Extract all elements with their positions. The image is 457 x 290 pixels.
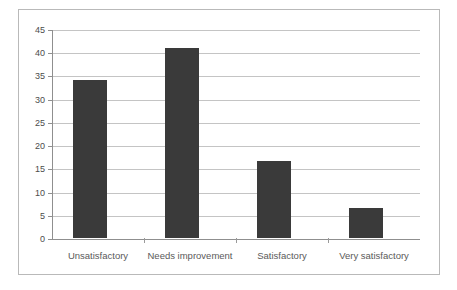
y-tick-mark-40 [48, 53, 53, 54]
y-tick-mark-10 [48, 193, 53, 194]
y-tick-label: 45 [35, 26, 45, 35]
gridline-10 [52, 193, 420, 194]
gridline-45 [52, 30, 420, 31]
x-axis-category-label: Satisfactory [257, 251, 307, 261]
gridline-25 [52, 123, 420, 124]
x-tick-mark [236, 238, 237, 243]
y-tick-mark-15 [48, 169, 53, 170]
y-tick-mark-35 [48, 76, 53, 77]
y-tick-mark-5 [48, 216, 53, 217]
gridline-40 [52, 53, 420, 54]
y-tick-label: 20 [35, 142, 45, 151]
bar-chart-figure: 051015202530354045 UnsatisfactoryNeeds i… [18, 9, 440, 275]
bar [349, 208, 383, 238]
x-tick-mark [144, 238, 145, 243]
plot-area: 051015202530354045 UnsatisfactoryNeeds i… [52, 30, 420, 239]
y-tick-label: 15 [35, 165, 45, 174]
y-tick-mark-20 [48, 146, 53, 147]
x-axis-category-label: Very satisfactory [339, 251, 409, 261]
y-tick-mark-45 [48, 30, 53, 31]
y-tick-mark-25 [48, 123, 53, 124]
y-tick-label: 25 [35, 118, 45, 127]
bar [257, 161, 291, 238]
y-tick-label: 0 [40, 235, 45, 244]
y-tick-label: 30 [35, 95, 45, 104]
y-tick-label: 5 [40, 211, 45, 220]
bar [165, 48, 199, 238]
gridline-20 [52, 146, 420, 147]
y-tick-label: 35 [35, 72, 45, 81]
y-axis-line [52, 30, 53, 239]
y-tick-mark-30 [48, 100, 53, 101]
y-tick-label: 10 [35, 188, 45, 197]
x-axis-category-label: Unsatisfactory [68, 251, 128, 261]
x-tick-mark [328, 238, 329, 243]
x-axis-category-label: Needs improvement [147, 251, 232, 261]
gridline-15 [52, 169, 420, 170]
y-tick-label: 40 [35, 49, 45, 58]
gridline-35 [52, 76, 420, 77]
y-tick-mark-0 [48, 239, 53, 240]
bar [73, 80, 107, 238]
gridline-30 [52, 100, 420, 101]
